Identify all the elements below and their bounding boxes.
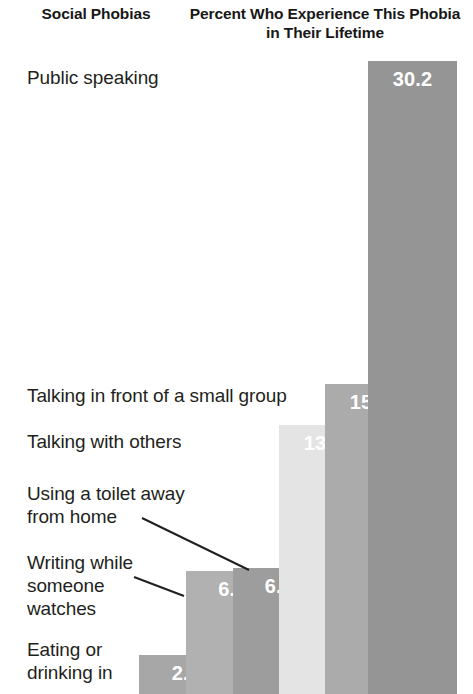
category-label-4: Writing while someone watches xyxy=(27,551,207,620)
category-label-2: Talking with others xyxy=(27,430,277,453)
social-phobias-bar-chart: Social Phobias Percent Who Experience Th… xyxy=(0,0,473,694)
category-label-3: Using a toilet away from home xyxy=(27,482,247,528)
bar-5: 30.2 xyxy=(368,61,457,694)
category-label-0: Public speaking xyxy=(27,66,247,89)
category-label-1: Talking in front of a small group xyxy=(27,384,327,407)
category-label-5: Eating or drinking in xyxy=(27,638,207,684)
bar-value-label-5: 30.2 xyxy=(368,67,457,91)
